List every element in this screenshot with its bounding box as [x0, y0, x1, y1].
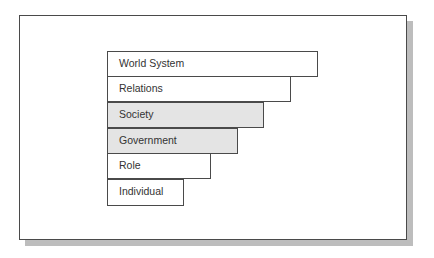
level-world-system: World System: [107, 51, 318, 77]
level-relations: Relations: [107, 76, 291, 102]
level-individual: Individual: [107, 179, 184, 206]
level-label: Society: [119, 108, 153, 120]
level-government: Government: [107, 128, 238, 154]
level-label: World System: [119, 57, 184, 69]
level-label: Individual: [119, 185, 163, 197]
level-label: Role: [119, 159, 141, 171]
level-label: Relations: [119, 82, 163, 94]
level-label: Government: [119, 134, 177, 146]
level-role: Role: [107, 153, 211, 179]
level-society: Society: [107, 102, 264, 128]
